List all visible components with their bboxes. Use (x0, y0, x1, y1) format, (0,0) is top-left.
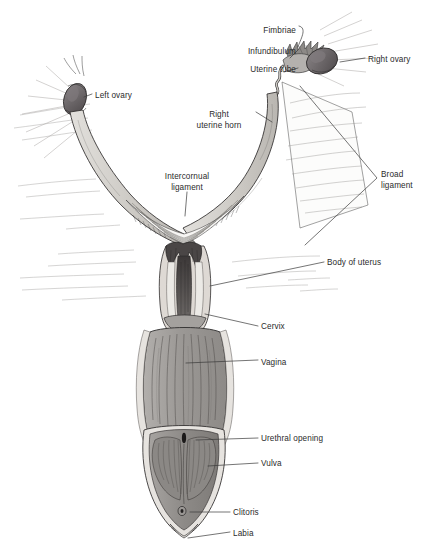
leader-lines (84, 26, 377, 538)
right-ovary-group (283, 12, 378, 86)
label-cervix: Cervix (261, 322, 301, 333)
uterus-body-group (159, 242, 211, 330)
clitoris-node (178, 506, 186, 515)
label-labia: Labia (233, 529, 267, 540)
label-clitoris: Clitoris (233, 508, 275, 519)
label-left-ovary: Left ovary (95, 91, 153, 102)
anatomy-illustration (0, 0, 430, 542)
leader-body-of-uterus (210, 262, 324, 286)
leader-intercornual (185, 192, 187, 216)
label-right-uterine-horn: Right uterine horn (186, 110, 252, 131)
vulva-block (143, 426, 225, 539)
cervix-block (177, 256, 192, 318)
mesometrium-right-striae (232, 256, 338, 291)
label-uterine-tube: Uterine tube (208, 65, 296, 76)
label-vagina: Vagina (261, 358, 301, 369)
label-fimbriae: Fimbriae (234, 26, 296, 37)
left-ovary-group (22, 55, 184, 251)
label-infundibulum: Infundibulum (205, 47, 296, 58)
label-urethral-opening: Urethral opening (261, 434, 349, 445)
leader-right-ovary (340, 58, 365, 62)
leader-labia (188, 532, 230, 538)
broad-ligament-sheet (282, 82, 368, 228)
label-broad-ligament: Broad ligament (381, 170, 429, 191)
label-intercornual-ligament: Intercornual ligament (152, 172, 222, 193)
label-body-of-uterus: Body of uterus (327, 258, 407, 269)
label-right-ovary: Right ovary (368, 55, 428, 66)
figure-canvas: FimbriaeInfundibulumUterine tubeRight ov… (0, 0, 430, 542)
right-horn-group (183, 66, 283, 250)
label-vulva: Vulva (261, 459, 297, 470)
leader-cervix (205, 314, 258, 326)
urethral-slit (182, 433, 186, 443)
